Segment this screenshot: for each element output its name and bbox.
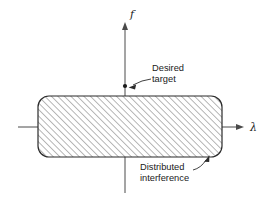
distributed-interference-leader-line [193, 160, 206, 170]
distributed-interference-region [38, 96, 222, 157]
horizontal-axis-arrowhead [236, 124, 244, 130]
horizontal-axis-label: λ [249, 121, 257, 134]
desired-target-label-line-2: target [152, 74, 176, 84]
vertical-axis-label: f [129, 8, 136, 21]
desired-target-leader-arrowhead [129, 84, 137, 89]
figure-container: f λ Desired target Distributed interfere… [0, 0, 266, 197]
desired-target-leader-line [133, 79, 151, 85]
distributed-interference-label-line-1: Distributed [140, 162, 184, 172]
vertical-axis-arrowhead [122, 22, 128, 30]
distributed-interference-label-line-2: interference [140, 173, 189, 183]
desired-target-label-line-1: Desired [152, 63, 184, 73]
desired-target-point [123, 84, 127, 88]
technical-diagram: f λ Desired target Distributed interfere… [0, 0, 266, 197]
desired-target-leader [129, 79, 151, 90]
